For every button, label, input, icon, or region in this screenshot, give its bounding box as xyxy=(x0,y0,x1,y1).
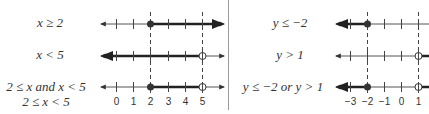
closed-dot-icon xyxy=(147,84,154,91)
left-axis-labels: 0 1 2 3 4 5 xyxy=(114,96,206,107)
closed-dot-icon xyxy=(364,21,371,28)
svg-text:4: 4 xyxy=(183,96,189,107)
svg-text:−1: −1 xyxy=(379,96,391,107)
left-numberline-1 xyxy=(101,19,224,29)
left-numberline-2 xyxy=(101,51,224,61)
svg-text:2: 2 xyxy=(148,96,154,107)
right-numberline-3 xyxy=(336,82,429,92)
number-lines-figure: 0 1 2 3 4 5 xyxy=(0,0,429,114)
svg-text:3: 3 xyxy=(166,96,172,107)
svg-text:−2: −2 xyxy=(362,96,374,107)
svg-text:1: 1 xyxy=(416,96,422,107)
svg-text:0: 0 xyxy=(399,96,405,107)
svg-text:−3: −3 xyxy=(345,96,357,107)
right-numberline-2 xyxy=(336,51,429,61)
right-guide-lines xyxy=(368,12,419,96)
svg-text:0: 0 xyxy=(114,96,120,107)
left-numberline-3 xyxy=(101,82,224,92)
closed-dot-icon xyxy=(364,84,371,91)
right-numberline-1 xyxy=(336,19,429,29)
svg-text:1: 1 xyxy=(131,96,137,107)
closed-dot-icon xyxy=(147,21,154,28)
svg-text:5: 5 xyxy=(200,96,206,107)
right-axis-labels: −3 −2 −1 0 1 xyxy=(345,96,422,107)
